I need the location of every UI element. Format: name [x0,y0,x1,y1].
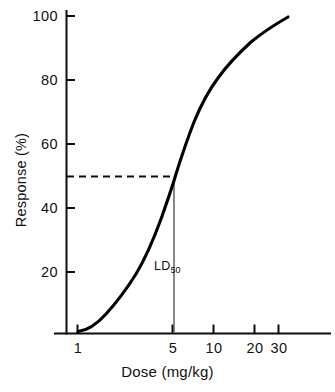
y-tick-label-100: 100 [8,9,58,24]
ld50-subscript: 50 [170,265,180,275]
x-tick-label-20: 20 [247,341,264,356]
x-tick-label-1: 1 [74,341,82,356]
y-tick-label-80: 80 [8,73,58,88]
plot-canvas [0,0,335,392]
y-axis-title: Response (%) [13,115,29,245]
ld50-annotation-label: LD50 [154,259,180,273]
dose-response-curve [78,17,288,332]
x-axis-title: Dose (mg/kg) [0,363,335,380]
x-tick-label-5: 5 [169,341,177,356]
y-tick-label-20: 20 [8,265,58,280]
x-tick-label-30: 30 [271,341,288,356]
x-tick-label-10: 10 [206,341,223,356]
ld50-prefix: LD [154,259,170,273]
dose-response-chart: 100 80 60 40 20 1 5 10 20 30 Response (%… [0,0,335,392]
